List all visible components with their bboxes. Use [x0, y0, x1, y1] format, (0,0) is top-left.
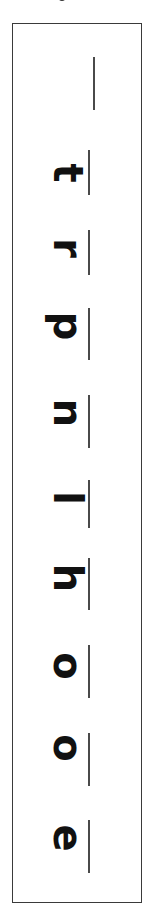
letter-t: t	[48, 153, 88, 193]
letter-e: e	[48, 818, 88, 858]
letter-p: p	[48, 306, 88, 346]
letter-o: o	[48, 728, 88, 768]
letter-l: l	[48, 478, 88, 518]
cropped-glyph-fragment	[56, 0, 68, 4]
top-baseline	[93, 57, 95, 110]
letter-n: n	[48, 393, 88, 433]
letter-h: h	[48, 558, 88, 598]
letter-r: r	[48, 228, 88, 268]
letter-o: o	[48, 646, 88, 686]
